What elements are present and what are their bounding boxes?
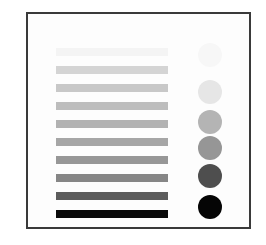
gray-circle-1 [198,43,222,67]
gray-bar-3 [56,84,168,92]
gray-circle-4 [198,136,222,160]
gray-bar-5 [56,120,168,128]
gray-circle-5 [198,164,222,188]
gray-circle-2 [198,80,222,104]
gray-bar-8 [56,174,168,182]
gray-bar-7 [56,156,168,164]
gray-bar-10 [56,210,168,218]
gray-bar-4 [56,102,168,110]
gray-bar-1 [56,48,168,56]
gray-circle-6 [198,195,222,219]
gray-bar-6 [56,138,168,146]
gray-circle-3 [198,110,222,134]
gray-bar-2 [56,66,168,74]
gray-bar-9 [56,192,168,200]
